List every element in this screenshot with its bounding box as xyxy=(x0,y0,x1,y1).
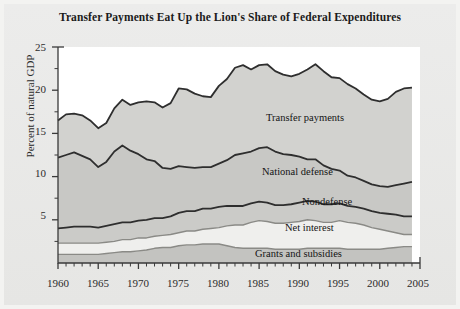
series-label-defense: National defense xyxy=(262,166,333,177)
y-tick-10: 10 xyxy=(24,167,46,179)
x-tick-1995: 1995 xyxy=(318,277,358,289)
series-label-transfer: Transfer payments xyxy=(266,112,344,123)
y-tick-15: 15 xyxy=(24,125,46,137)
series-label-nondefense: Nondefense xyxy=(302,196,352,207)
y-tick-25: 25 xyxy=(24,41,46,53)
y-tick-20: 20 xyxy=(24,83,46,95)
x-tick-1975: 1975 xyxy=(158,277,198,289)
x-tick-1985: 1985 xyxy=(238,277,278,289)
x-tick-2000: 2000 xyxy=(358,277,398,289)
x-tick-2005: 2005 xyxy=(398,277,438,289)
x-tick-1970: 1970 xyxy=(118,277,158,289)
series-label-grants: Grants and subsidies xyxy=(255,248,342,259)
chart-figure: Transfer Payments Eat Up the Lion's Shar… xyxy=(0,0,460,309)
series-label-interest: Net interest xyxy=(285,222,334,233)
chart-plot-area xyxy=(0,0,460,309)
y-tick-5: 5 xyxy=(24,209,46,221)
chart-title: Transfer Payments Eat Up the Lion's Shar… xyxy=(0,11,460,23)
x-tick-1990: 1990 xyxy=(278,277,318,289)
x-tick-1980: 1980 xyxy=(198,277,238,289)
x-tick-1960: 1960 xyxy=(38,277,78,289)
x-tick-1965: 1965 xyxy=(78,277,118,289)
